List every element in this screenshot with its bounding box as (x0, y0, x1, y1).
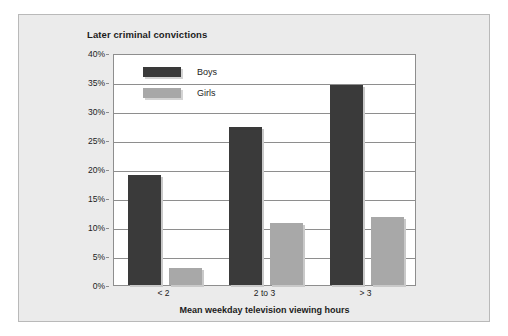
chart-legend: BoysGirls (143, 61, 217, 103)
bar-body (330, 85, 363, 285)
x-tick-label: > 3 (359, 288, 371, 298)
x-tick-label: < 2 (157, 288, 169, 298)
bar-girls-1 (270, 223, 303, 285)
y-tick-label: 0% (93, 281, 105, 291)
bar-body (270, 223, 303, 285)
bar-body (128, 175, 161, 285)
y-tick-mark (106, 228, 109, 229)
legend-item-boys: Boys (143, 61, 217, 82)
y-tick-label: 5% (93, 252, 105, 262)
y-tick-mark (106, 112, 109, 113)
bar-girls-0 (169, 268, 202, 285)
y-tick-label: 15% (88, 194, 105, 204)
x-axis-title: Mean weekday television viewing hours (113, 305, 416, 315)
bar-boys-1 (229, 127, 262, 285)
y-tick-label: 40% (88, 49, 105, 59)
y-tick-label: 20% (88, 165, 105, 175)
legend-label: Boys (197, 67, 217, 77)
figure-panel: Later criminal convictions 0%5%10%15%20%… (18, 14, 490, 322)
legend-label: Girls (197, 88, 216, 98)
bar-body (371, 217, 404, 285)
legend-swatch-girls (143, 88, 181, 98)
y-axis: 0%5%10%15%20%25%30%35%40% (67, 54, 109, 286)
y-tick-mark (106, 199, 109, 200)
y-tick-label: 35% (88, 78, 105, 88)
bar-body (169, 268, 202, 285)
y-tick-label: 10% (88, 223, 105, 233)
bar-body (229, 127, 262, 285)
y-tick-mark (106, 257, 109, 258)
y-tick-label: 25% (88, 136, 105, 146)
y-tick-mark (106, 83, 109, 84)
y-tick-label: 30% (88, 107, 105, 117)
bar-boys-0 (128, 175, 161, 285)
y-tick-mark (106, 286, 109, 287)
x-axis: < 22 to 3> 3 (113, 288, 416, 304)
y-tick-mark (106, 54, 109, 55)
y-tick-mark (106, 170, 109, 171)
bar-girls-2 (371, 217, 404, 285)
legend-item-girls: Girls (143, 82, 217, 103)
y-tick-mark (106, 141, 109, 142)
chart-title: Later criminal convictions (87, 29, 207, 40)
x-tick-label: 2 to 3 (254, 288, 275, 298)
legend-swatch-boys (143, 67, 181, 77)
bar-boys-2 (330, 85, 363, 285)
